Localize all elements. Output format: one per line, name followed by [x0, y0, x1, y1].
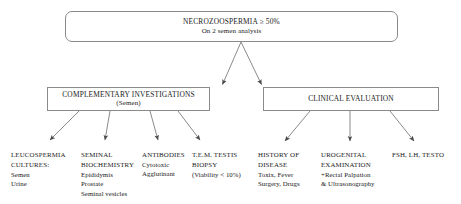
leaf-urogenital-examination: UROGENITAL EXAMINATION +Rectal Palpation… — [321, 150, 375, 189]
leaf-tem-testis-biopsy: T.E.M. TESTIS BIOPSY (Viability < 10%) — [192, 150, 241, 179]
leaf-antibodies-head-0: ANTIBODIES — [142, 150, 185, 160]
leaf-seminal-biochemistry-head-0: SEMINAL — [81, 150, 134, 160]
connector-root-to-clinical — [241, 42, 262, 85]
leaf-history-of-disease: HISTORY OF DISEASE Toxix, Fever Surgery,… — [258, 150, 300, 189]
leaf-seminal-biochemistry-line-1: Prostate — [81, 179, 134, 189]
leaf-hormone-panel: FSH, LH, TESTO — [392, 150, 444, 160]
leaf-tem-testis-biopsy-line-0: (Viability < 10%) — [192, 170, 241, 180]
connector-complementary-to-antibodies — [150, 111, 158, 140]
node-complementary-investigations[interactable]: COMPLEMENTARY INVESTIGATIONS (Semen) — [47, 87, 210, 111]
leaf-urogenital-examination-head-1: EXAMINATION — [321, 160, 375, 170]
leaf-seminal-biochemistry: SEMINAL BIOCHEMISTRY Epididymis Prostate… — [81, 150, 134, 199]
leaf-history-of-disease-line-0: Toxix, Fever — [258, 170, 300, 180]
leaf-seminal-biochemistry-line-2: Seminal vesicles — [81, 189, 134, 199]
leaf-seminal-biochemistry-head-1: BIOCHEMISTRY — [81, 160, 134, 170]
leaf-leucospermia-cultures: LEUCOSPERMIA CULTURES: Semen Urine — [11, 150, 66, 189]
connector-root-to-complementary — [223, 42, 242, 85]
connector-clinical-to-history — [285, 111, 310, 141]
leaf-history-of-disease-head-1: DISEASE — [258, 160, 300, 170]
leaf-hormone-panel-head-0: FSH, LH, TESTO — [392, 150, 444, 160]
leaf-history-of-disease-head-0: HISTORY OF — [258, 150, 300, 160]
leaf-urogenital-examination-line-0: +Rectal Palpation — [321, 170, 375, 180]
leaf-leucospermia-cultures-line-1: Urine — [11, 179, 66, 189]
leaf-leucospermia-cultures-head-0: LEUCOSPERMIA — [11, 150, 66, 160]
leaf-leucospermia-cultures-line-0: Semen — [11, 170, 66, 180]
connector-complementary-to-leucospermia — [50, 111, 79, 140]
node-clinical-evaluation-title: CLINICAL EVALUATION — [308, 95, 394, 104]
node-clinical-evaluation[interactable]: CLINICAL EVALUATION — [263, 87, 439, 111]
connector-complementary-to-biopsy — [178, 111, 200, 140]
connector-complementary-to-biochemistry — [105, 111, 110, 140]
diagram-canvas: NECROZOOSPERMIA ≥ 50% On 2 semen analysi… — [0, 0, 461, 204]
leaf-tem-testis-biopsy-head-0: T.E.M. TESTIS — [192, 150, 241, 160]
leaf-leucospermia-cultures-head-1: CULTURES: — [11, 160, 66, 170]
leaf-antibodies: ANTIBODIES Cytotoxic Agglutinant — [142, 150, 185, 179]
node-necrozoospermia[interactable]: NECROZOOSPERMIA ≥ 50% On 2 semen analysi… — [65, 11, 398, 42]
leaf-antibodies-line-0: Cytotoxic — [142, 160, 185, 170]
leaf-urogenital-examination-line-1: & Ultrasonography — [321, 179, 375, 189]
leaf-antibodies-line-1: Agglutinant — [142, 169, 185, 179]
node-complementary-investigations-subtitle: (Semen) — [116, 99, 140, 107]
leaf-tem-testis-biopsy-head-1: BIOPSY — [192, 160, 241, 170]
leaf-seminal-biochemistry-line-0: Epididymis — [81, 170, 134, 180]
leaf-history-of-disease-line-1: Surgery, Drugs — [258, 179, 300, 189]
connector-clinical-to-hormones — [390, 111, 414, 141]
leaf-urogenital-examination-head-0: UROGENITAL — [321, 150, 375, 160]
node-necrozoospermia-title: NECROZOOSPERMIA ≥ 50% — [183, 18, 280, 27]
node-complementary-investigations-title: COMPLEMENTARY INVESTIGATIONS — [62, 91, 194, 100]
node-necrozoospermia-subtitle: On 2 semen analysis — [202, 27, 262, 35]
